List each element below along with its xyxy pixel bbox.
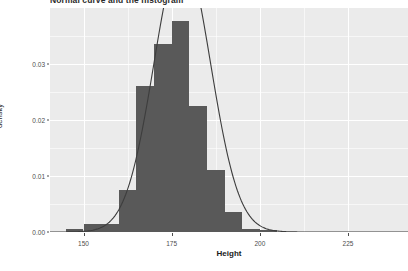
y-tick-mark	[47, 120, 50, 121]
x-tick-label: 200	[254, 240, 265, 247]
normal-density-curve	[50, 8, 408, 232]
y-tick-label: 0.02	[32, 117, 45, 124]
plot-panel	[50, 8, 408, 232]
chart-root: Normal curve and the histogram 0.000.010…	[0, 0, 408, 271]
x-tick-label: 150	[78, 240, 89, 247]
x-tick-mark	[84, 233, 85, 236]
x-tick-label: 225	[343, 240, 354, 247]
y-tick-mark	[47, 64, 50, 65]
x-tick-mark	[172, 233, 173, 236]
y-axis-title: density	[0, 104, 4, 128]
chart-title: Normal curve and the histogram	[50, 0, 400, 5]
x-tick-label: 175	[166, 240, 177, 247]
x-tick-mark	[260, 233, 261, 236]
y-tick-mark	[47, 176, 50, 177]
x-tick-mark	[348, 233, 349, 236]
x-axis-title: Height	[50, 249, 408, 258]
y-tick-mark	[47, 232, 50, 233]
y-tick-label: 0.01	[32, 173, 45, 180]
y-tick-label: 0.00	[32, 229, 45, 236]
y-tick-label: 0.03	[32, 61, 45, 68]
